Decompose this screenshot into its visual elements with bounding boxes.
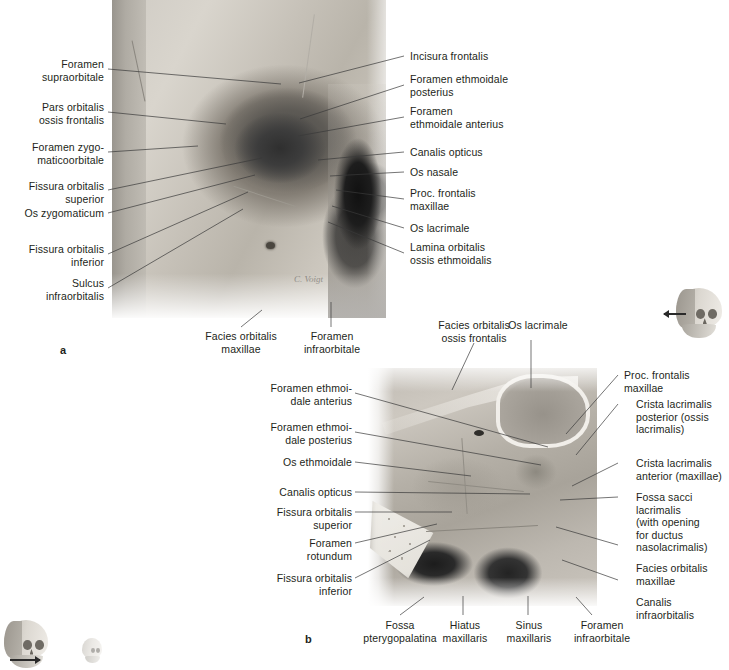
mandible-shape (682, 324, 716, 338)
label-os-lacrimale-b: Os lacrimale (488, 319, 588, 332)
label-canalis-opticus: Canalis opticus (410, 146, 550, 159)
label-pars-orbitalis-ossis-frontalis: Pars orbitalis ossis frontalis (0, 101, 104, 126)
panel-a-photograph: C. Voigt (112, 0, 386, 318)
plate-edge-fade (112, 0, 386, 318)
label-foramen-infraorbitale: Foramen infraorbitale (272, 330, 392, 355)
label-fissura-orbitalis-superior: Fissura orbitalis superior (0, 180, 104, 205)
label-sulcus-infraorbitalis: Sulcus infraorbitalis (0, 277, 104, 302)
label-lamina-orbitalis-ossis-ethmoidalis: Lamina orbitalis ossis ethmoidalis (410, 241, 550, 266)
plate-edge-fade (368, 368, 597, 606)
label-foramen-ethmoidale-anterius-b: Foramen ethmoi- dale anterius (248, 382, 352, 407)
label-fissura-orbitalis-inferior-b: Fissura orbitalis inferior (248, 572, 352, 597)
panel-b-photograph (368, 368, 597, 606)
label-foramen-zygomaticoorbitale: Foramen zygo- maticoorbitale (0, 141, 104, 166)
label-incisura-frontalis: Incisura frontalis (410, 50, 550, 63)
label-crista-lacrimalis-anterior: Crista lacrimalis anterior (maxillae) (636, 457, 729, 482)
skull-orientation-icon (676, 288, 722, 340)
label-proc-frontalis-maxillae-b: Proc. frontalis maxillae (624, 369, 729, 394)
orbit-shape (35, 640, 44, 650)
label-foramen-infraorbitale-b: Foramen infraorbitale (556, 619, 648, 644)
label-fossa-sacci-lacrimalis: Fossa sacci lacrimalis (with opening for… (636, 491, 729, 554)
mandible-shape (85, 656, 100, 663)
label-foramen-ethmoidale-anterius: Foramen ethmoidale anterius (410, 105, 550, 130)
label-sinus-maxillaris: Sinus maxillaris (492, 619, 566, 644)
label-crista-lacrimalis-posterior: Crista lacrimalis posterior (ossis lacri… (636, 398, 729, 436)
label-fissura-orbitalis-inferior: Fissura orbitalis inferior (0, 243, 104, 268)
skull-orientation-icon (82, 638, 102, 664)
label-fissura-orbitalis-superior-b: Fissura orbitalis superior (248, 506, 352, 531)
label-foramen-ethmoidale-posterius-b: Foramen ethmoi- dale posterius (248, 421, 352, 446)
label-facies-orbitalis-maxillae-b: Facies orbitalis maxillae (636, 562, 729, 587)
label-foramen-supraorbitale: Foramen supraorbitale (0, 58, 104, 83)
label-foramen-ethmoidale-posterius: Foramen ethmoidale posterius (410, 73, 550, 98)
view-direction-arrow-icon (664, 313, 686, 315)
label-canalis-infraorbitalis: Canalis infraorbitalis (636, 596, 729, 621)
skull-orientation-icon (4, 620, 48, 670)
label-os-lacrimale: Os lacrimale (410, 222, 550, 235)
orbit-shape (23, 640, 32, 650)
label-os-nasale: Os nasale (410, 166, 550, 179)
orbit-shape (708, 309, 717, 319)
label-os-ethmoidale: Os ethmoidale (248, 456, 352, 469)
panel-a-letter: a (60, 344, 66, 356)
label-hiatus-maxillaris: Hiatus maxillaris (428, 619, 502, 644)
cranium-shaded-half (4, 621, 22, 658)
label-proc-frontalis-maxillae: Proc. frontalis maxillae (410, 187, 550, 212)
panel-b-letter: b (305, 633, 312, 645)
label-canalis-opticus-b: Canalis opticus (248, 486, 352, 499)
cranium-shaded-half (676, 289, 695, 327)
label-foramen-rotundum: Foramen rotundum (248, 537, 352, 562)
label-os-zygomaticum: Os zygomaticum (0, 207, 104, 220)
view-direction-arrow-icon (10, 659, 40, 661)
